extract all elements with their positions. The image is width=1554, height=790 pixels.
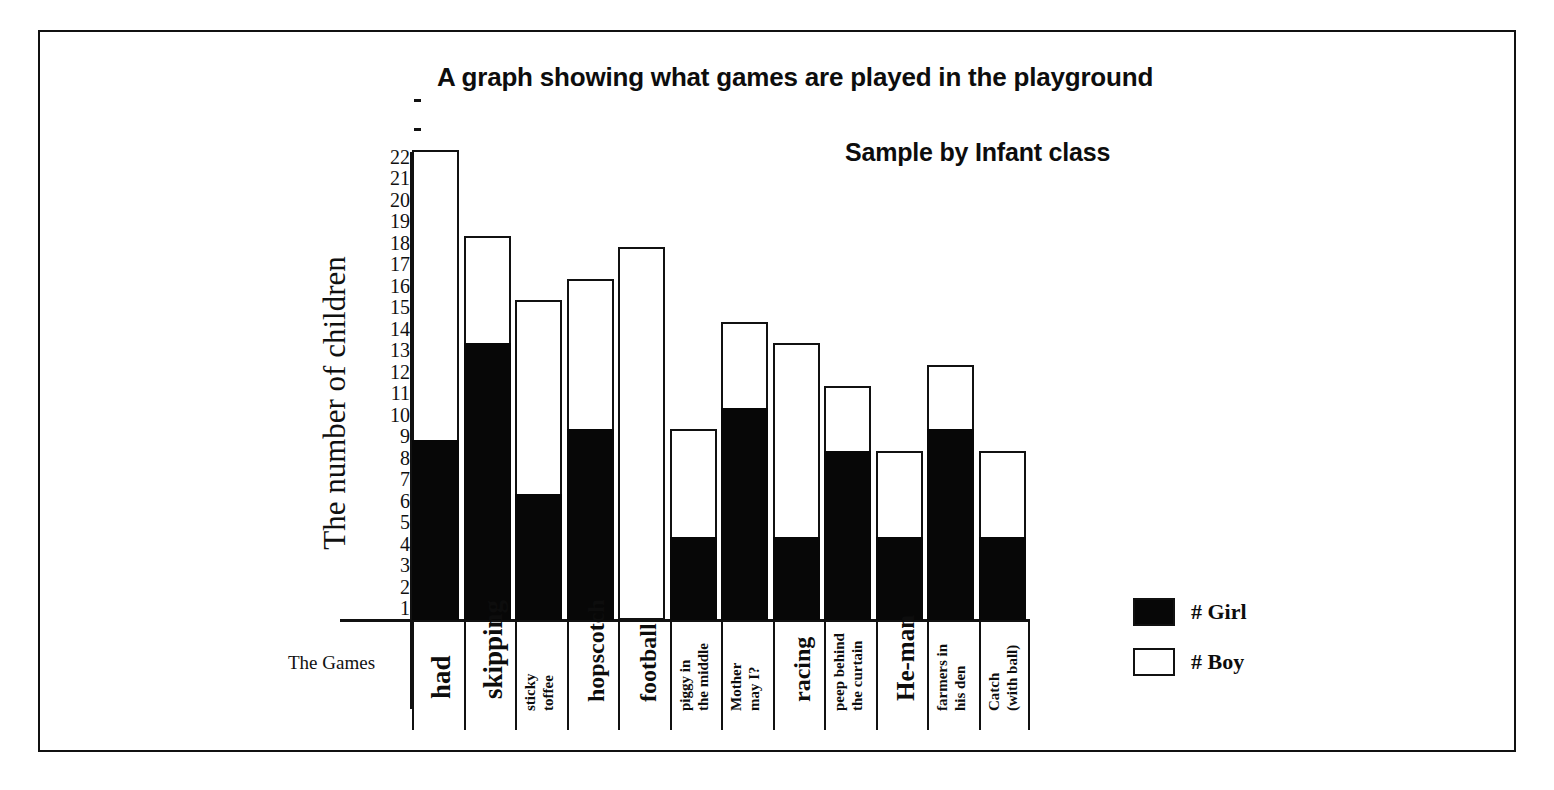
y-tick-label: 18: [390, 232, 410, 254]
plot-area: 22212019181716151413121110987654321 hads…: [0, 0, 1554, 790]
y-tick-label: 2: [400, 576, 410, 598]
x-label-text: sticky: [523, 603, 538, 711]
x-label-text: piggy in: [678, 603, 693, 711]
y-tick-6: 6: [370, 491, 410, 511]
y-tick-21: 21: [370, 168, 410, 188]
y-tick-10: 10: [370, 405, 410, 425]
x-label-cell[interactable]: piggy inthe middle: [670, 622, 722, 730]
y-tick-label: 9: [400, 425, 410, 447]
y-tick-label: 22: [390, 146, 410, 168]
y-tick-13: 13: [370, 340, 410, 360]
bar-segment-girl[interactable]: [515, 494, 562, 620]
y-tick-label: 19: [390, 210, 410, 232]
x-label-text: football: [636, 594, 660, 702]
y-tick-11: 11: [370, 383, 410, 403]
y-tick-5: 5: [370, 512, 410, 532]
legend-item[interactable]: # Girl: [1133, 598, 1247, 626]
y-tick-label: 15: [390, 296, 410, 318]
legend-swatch-boy: [1133, 648, 1175, 676]
y-tick-1: 1: [370, 598, 410, 618]
y-tick-7: 7: [370, 469, 410, 489]
y-tick-label: 3: [400, 554, 410, 576]
x-label-cell[interactable]: skipping: [464, 622, 516, 730]
x-label-text: his den: [953, 603, 968, 711]
x-label-cell[interactable]: Mothermay I?: [721, 622, 773, 730]
y-tick-15: 15: [370, 297, 410, 317]
x-label-cell[interactable]: stickytoffee: [515, 622, 567, 730]
y-tick-label: 10: [390, 404, 410, 426]
y-tick-8: 8: [370, 448, 410, 468]
bar-segment-girl[interactable]: [464, 343, 511, 620]
y-tick-9: 9: [370, 426, 410, 446]
x-label-text: Catch: [987, 603, 1002, 711]
legend-item[interactable]: # Boy: [1133, 648, 1247, 676]
y-tick-label: 21: [390, 167, 410, 189]
y-tick-3: 3: [370, 555, 410, 575]
x-label-cell[interactable]: farmers inhis den: [927, 622, 979, 730]
x-label-cell[interactable]: racing: [773, 622, 825, 730]
x-label-cell[interactable]: football: [618, 622, 670, 730]
legend-label: # Girl: [1191, 599, 1247, 625]
chart-legend: # Girl# Boy: [1133, 598, 1247, 698]
y-tick-16: 16: [370, 276, 410, 296]
x-label-text: the curtain: [850, 603, 865, 711]
legend-swatch-girl: [1133, 598, 1175, 626]
y-tick-label: 20: [390, 189, 410, 211]
chart-page: A graph showing what games are played in…: [0, 0, 1554, 790]
bar-segment-boy[interactable]: [618, 247, 665, 621]
x-label-text: peep behind: [832, 603, 847, 711]
x-label-text: He-man: [893, 593, 918, 701]
x-label-cell[interactable]: hopscotch: [567, 622, 619, 730]
y-tick-12: 12: [370, 362, 410, 382]
bar-segment-girl[interactable]: [567, 429, 614, 620]
y-tick-label: 13: [390, 339, 410, 361]
y-tick-label: 1: [400, 597, 410, 619]
x-label-text: racing: [790, 594, 814, 702]
y-tick-19: 19: [370, 211, 410, 231]
y-tick-label: 12: [390, 361, 410, 383]
y-tick-label: 7: [400, 468, 410, 490]
y-tick-label: 11: [391, 382, 410, 404]
y-tick-18: 18: [370, 233, 410, 253]
x-label-cell[interactable]: had: [412, 622, 464, 730]
x-label-text: toffee: [541, 603, 556, 711]
bar-segment-girl[interactable]: [721, 408, 768, 620]
y-tick-label: 16: [390, 275, 410, 297]
x-label-cell[interactable]: peep behindthe curtain: [824, 622, 876, 730]
x-label-cell[interactable]: He-man: [876, 622, 928, 730]
bar-segment-girl[interactable]: [927, 429, 974, 620]
y-tick-label: 5: [400, 511, 410, 533]
bar-segment-girl[interactable]: [824, 451, 871, 620]
y-tick-22: 22: [370, 147, 410, 167]
y-tick-label: 4: [400, 533, 410, 555]
x-label-text: (with ball): [1005, 603, 1020, 711]
x-label-text: farmers in: [935, 603, 950, 711]
x-axis-title: The Games: [288, 652, 375, 674]
y-tick-label: 17: [390, 253, 410, 275]
x-label-text: may I?: [747, 603, 762, 711]
x-label-cell[interactable]: Catch(with ball): [979, 622, 1031, 730]
y-tick-14: 14: [370, 319, 410, 339]
y-tick-4: 4: [370, 534, 410, 554]
x-label-text: had: [428, 591, 455, 699]
x-label-text: Mother: [729, 603, 744, 711]
y-tick-label: 8: [400, 447, 410, 469]
y-tick-label: 14: [390, 318, 410, 340]
x-label-text: hopscotch: [584, 594, 608, 702]
y-tick-2: 2: [370, 577, 410, 597]
y-tick-17: 17: [370, 254, 410, 274]
x-axis-labels: hadskippingstickytoffeehopscotchfootball…: [412, 622, 1032, 732]
x-label-text: the middle: [696, 603, 711, 711]
legend-label: # Boy: [1191, 649, 1244, 675]
y-tick-20: 20: [370, 190, 410, 210]
y-tick-label: 6: [400, 490, 410, 512]
x-label-text: skipping: [480, 591, 507, 699]
